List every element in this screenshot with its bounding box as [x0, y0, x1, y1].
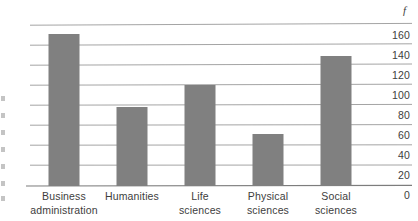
scan-artifact-mark	[1, 113, 5, 118]
y-tick-label-80: 80	[398, 110, 410, 121]
bar-slot-physical-sciences	[234, 26, 302, 186]
x-label-line: Physical	[229, 190, 307, 204]
bar-humanities	[117, 107, 148, 186]
bar-slot-humanities	[98, 26, 166, 186]
bar-slot-business-administration	[30, 26, 98, 186]
bar-life-sciences	[185, 85, 216, 186]
scan-artifact-mark	[1, 196, 5, 201]
bar-chart: f 160 140 120 100 80 60 40 20 0 Business…	[0, 0, 418, 221]
y-axis-labels: f 160 140 120 100 80 60 40 20 0	[374, 0, 414, 221]
scan-artifact-mark	[1, 164, 5, 169]
y-tick-label-120: 120	[392, 70, 410, 81]
x-label-physical-sciences: Physical sciences	[229, 190, 307, 217]
x-label-life-sciences: Life sciences	[161, 190, 239, 217]
y-tick-label-20: 20	[398, 170, 410, 181]
plot-area	[30, 26, 370, 186]
x-label-line: Business	[25, 190, 103, 204]
x-label-humanities: Humanities	[93, 190, 171, 204]
y-tick-label-140: 140	[392, 50, 410, 61]
x-label-line: Social	[297, 190, 375, 204]
scan-artifact-mark	[1, 147, 5, 152]
x-label-line: Humanities	[93, 190, 171, 204]
x-label-business-administration: Business administration	[25, 190, 103, 217]
y-tick-label-60: 60	[398, 130, 410, 141]
scan-artifact-mark	[1, 130, 5, 135]
x-label-line: administration	[25, 204, 103, 218]
x-label-line: sciences	[161, 204, 239, 218]
y-tick-label-0: 0	[404, 190, 410, 201]
y-tick-label-40: 40	[398, 150, 410, 161]
bar-social-sciences	[321, 56, 352, 186]
bar-physical-sciences	[253, 134, 284, 186]
bars-layer	[30, 26, 370, 186]
scan-edge-artifacts	[0, 96, 7, 202]
scan-artifact-mark	[1, 96, 5, 101]
x-label-social-sciences: Social sciences	[297, 190, 375, 217]
x-label-line: sciences	[297, 204, 375, 218]
y-axis-title: f	[403, 5, 406, 16]
bar-slot-social-sciences	[302, 26, 370, 186]
x-axis-labels: Business administration Humanities Life …	[30, 190, 370, 221]
y-tick-label-160: 160	[392, 30, 410, 41]
x-label-line: Life	[161, 190, 239, 204]
bar-slot-life-sciences	[166, 26, 234, 186]
y-tick-label-100: 100	[392, 90, 410, 101]
gridline-160	[30, 23, 412, 25]
bar-business-administration	[49, 34, 80, 186]
scan-artifact-mark	[1, 181, 5, 186]
x-label-line: sciences	[229, 204, 307, 218]
